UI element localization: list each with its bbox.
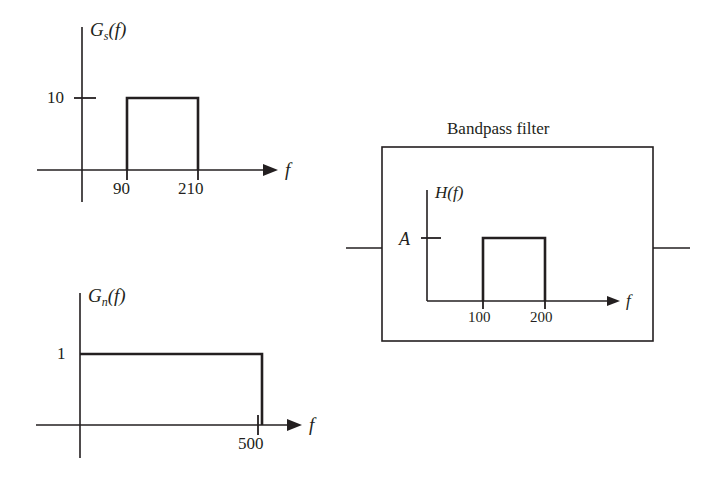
transfer-function-x-axis-arrowhead [607,296,620,306]
signal-psd-x-axis-arrowhead [263,164,278,176]
signal-psd-axes [37,27,278,202]
transfer-function-x-axis-label: f [626,292,631,309]
signal-psd-x-axis-label: f [285,160,290,179]
signal-psd-xtick-label-90: 90 [113,180,130,197]
figure-canvas: Gs(f) 10 90 210 f Gn(f) 1 500 f Bandpass… [0,0,716,497]
noise-psd-y-axis-label-main: G [88,285,102,306]
transfer-function-xtick-label-100: 100 [468,310,491,325]
bandpass-filter-box [346,147,690,341]
signal-psd-y-axis-label-arg: (f) [108,19,126,40]
signal-psd-y-axis-label-main: G [90,19,104,40]
noise-psd-pulse [80,354,262,425]
transfer-function-xtick-label-200: 200 [530,310,553,325]
noise-psd-xtick-label-500: 500 [238,435,264,452]
transfer-function-y-axis-label-main: H [435,183,447,202]
noise-psd-y-axis-label-subscript: n [102,295,108,309]
bandpass-filter-title: Bandpass filter [447,120,549,137]
transfer-function-axes [421,190,620,309]
signal-psd-pulse [127,98,198,170]
noise-psd-ytick-label-1: 1 [57,345,66,362]
bandpass-filter-rectangle [382,147,653,341]
transfer-function-ytick-label-A: A [399,230,410,248]
noise-psd-y-axis-label: Gn(f) [88,286,126,305]
figure-vector-layer [0,0,716,497]
transfer-function-y-axis-label-arg: (f) [447,183,463,202]
signal-psd-y-axis-label: Gs(f) [90,20,126,39]
signal-psd-xtick-label-210: 210 [178,180,204,197]
noise-psd-y-axis-label-arg: (f) [108,285,126,306]
signal-psd-y-axis-label-subscript: s [104,29,109,43]
transfer-function-y-axis-label: H(f) [435,184,463,201]
transfer-function-pulse [483,238,545,301]
signal-psd-ytick-label-10: 10 [47,89,64,106]
noise-psd-x-axis-label: f [309,415,314,434]
noise-psd-x-axis-arrowhead [287,419,302,431]
